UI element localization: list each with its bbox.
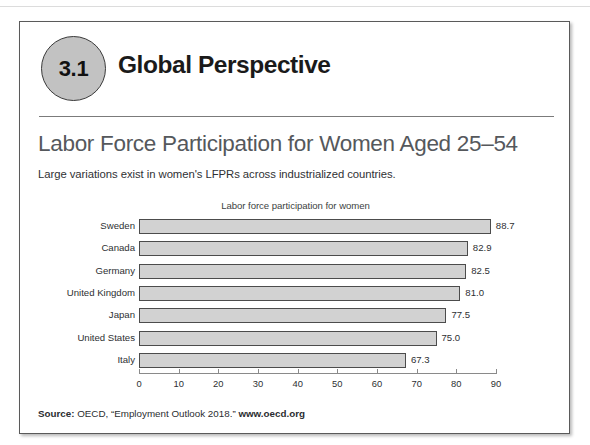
bar-track bbox=[139, 264, 466, 279]
bar-category-label: Italy bbox=[0, 354, 135, 365]
bar-category-label: United Kingdom bbox=[0, 287, 135, 298]
bar-chart: Labor force participation for women Swed… bbox=[20, 200, 571, 405]
bar[interactable] bbox=[139, 286, 460, 301]
exhibit-subtitle: Large variations exist in women's LFPRs … bbox=[38, 168, 396, 180]
x-axis-tick bbox=[456, 369, 457, 374]
page-top-rule bbox=[0, 6, 590, 7]
bar[interactable] bbox=[139, 241, 468, 256]
header-divider bbox=[39, 116, 554, 117]
source-citation: OECD, “Employment Outlook 2018.” bbox=[74, 408, 238, 419]
bar-category-label: Sweden bbox=[0, 220, 135, 231]
chart-plot-area: Sweden88.7Canada82.9Germany82.5United Ki… bbox=[20, 217, 571, 382]
bar-row: Japan77.5 bbox=[20, 308, 571, 323]
x-axis-tick-label: 10 bbox=[173, 378, 183, 389]
x-axis-tick bbox=[139, 369, 140, 374]
bar-category-label: Japan bbox=[0, 309, 135, 320]
bar-category-label: United States bbox=[0, 332, 135, 343]
x-axis-tick-label: 0 bbox=[136, 378, 141, 389]
bar[interactable] bbox=[139, 353, 406, 368]
bar-track bbox=[139, 331, 437, 346]
x-axis-tick-label: 30 bbox=[253, 378, 263, 389]
x-axis-tick bbox=[417, 369, 418, 374]
bar-row: United Kingdom81.0 bbox=[20, 286, 571, 301]
x-axis-tick-label: 40 bbox=[292, 378, 302, 389]
exhibit-box: 3.1 Global Perspective Labor Force Parti… bbox=[19, 21, 570, 434]
x-axis-tick bbox=[337, 369, 338, 374]
bar-row: Sweden88.7 bbox=[20, 219, 571, 234]
bar-value-label: 81.0 bbox=[465, 287, 484, 298]
bar[interactable] bbox=[139, 308, 446, 323]
x-axis-tick bbox=[377, 369, 378, 374]
bar-category-label: Germany bbox=[0, 265, 135, 276]
x-axis: 0102030405060708090 bbox=[139, 373, 496, 399]
x-axis-tick bbox=[218, 369, 219, 374]
x-axis-tick-label: 60 bbox=[372, 378, 382, 389]
bar[interactable] bbox=[139, 331, 437, 346]
chart-title: Labor force participation for women bbox=[20, 200, 571, 211]
x-axis-tick-label: 70 bbox=[411, 378, 421, 389]
bar-category-label: Canada bbox=[0, 242, 135, 253]
bar-value-label: 75.0 bbox=[442, 332, 461, 343]
section-title: Global Perspective bbox=[118, 52, 331, 79]
x-axis-tick-label: 80 bbox=[451, 378, 461, 389]
section-number-label: 3.1 bbox=[59, 58, 89, 80]
bar-track bbox=[139, 308, 446, 323]
bar-track bbox=[139, 219, 491, 234]
bar-value-label: 77.5 bbox=[451, 309, 470, 320]
x-axis-tick bbox=[496, 369, 497, 374]
bar-value-label: 67.3 bbox=[411, 354, 430, 365]
x-axis-tick bbox=[258, 369, 259, 374]
bar[interactable] bbox=[139, 219, 491, 234]
source-note: Source: OECD, “Employment Outlook 2018.”… bbox=[38, 408, 305, 419]
x-axis-tick bbox=[298, 369, 299, 374]
bar-row: Canada82.9 bbox=[20, 241, 571, 256]
bar-row: Germany82.5 bbox=[20, 264, 571, 279]
source-label: Source: bbox=[38, 408, 74, 419]
section-number-badge: 3.1 bbox=[41, 36, 106, 101]
bar-value-label: 82.9 bbox=[473, 242, 492, 253]
bar-value-label: 82.5 bbox=[471, 265, 490, 276]
bar-value-label: 88.7 bbox=[496, 220, 515, 231]
x-axis-tick-label: 90 bbox=[491, 378, 501, 389]
x-axis-tick-label: 20 bbox=[213, 378, 223, 389]
bar-row: Italy67.3 bbox=[20, 353, 571, 368]
bar-track bbox=[139, 353, 406, 368]
source-url[interactable]: www.oecd.org bbox=[238, 408, 305, 419]
bar[interactable] bbox=[139, 264, 466, 279]
exhibit-title: Labor Force Participation for Women Aged… bbox=[38, 131, 518, 157]
x-axis-line bbox=[139, 373, 496, 374]
bar-track bbox=[139, 286, 460, 301]
x-axis-tick bbox=[179, 369, 180, 374]
bar-track bbox=[139, 241, 468, 256]
bar-row: United States75.0 bbox=[20, 331, 571, 346]
x-axis-tick-label: 50 bbox=[332, 378, 342, 389]
exhibit-header: 3.1 Global Perspective bbox=[20, 22, 569, 116]
